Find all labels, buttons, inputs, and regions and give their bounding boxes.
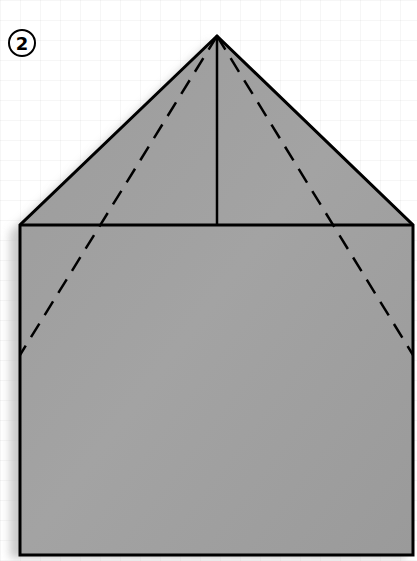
step-number-badge: 2 — [8, 29, 36, 57]
origami-diagram — [0, 0, 417, 561]
